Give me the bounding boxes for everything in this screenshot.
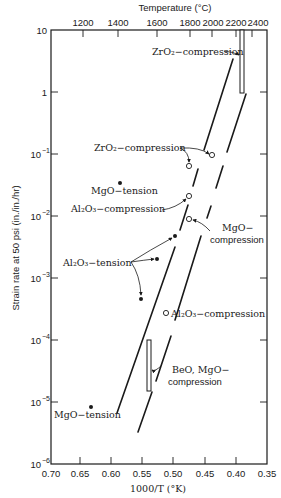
- svg-text:2400: 2400: [247, 17, 268, 28]
- annotation-mgo-tension-top: MgO−tension: [91, 185, 158, 196]
- svg-text:10: 10: [30, 149, 41, 160]
- annotation-al2o3-compression-low: Al₂O₃−compression: [170, 308, 265, 319]
- annotation-al2o3-tension: Al₂O₃−tension: [62, 257, 132, 268]
- zro2-compression-point: [209, 152, 214, 157]
- svg-text:0.60: 0.60: [102, 468, 121, 479]
- svg-text:10: 10: [30, 211, 41, 222]
- svg-text:−2: −2: [42, 209, 50, 216]
- svg-text:0.65: 0.65: [71, 468, 90, 479]
- annotation-mgo-tension-low: MgO−tension: [54, 409, 121, 420]
- y-axis-labels: 10 1 10 −1 10 −2 10 −3 10 −4 10 −5 10 −6: [30, 25, 50, 470]
- svg-text:−4: −4: [42, 333, 50, 340]
- al2o3-tension-point: [155, 257, 159, 261]
- svg-text:10: 10: [30, 273, 41, 284]
- svg-text:1200: 1200: [72, 17, 93, 28]
- mgo-compression-point: [186, 216, 191, 221]
- svg-text:0.35: 0.35: [258, 468, 277, 479]
- zro2-compression-point: [186, 163, 191, 168]
- filled-points: [89, 181, 177, 409]
- temperature-axis-title: Temperature (°C): [139, 2, 212, 13]
- al2o3-compression-point: [163, 310, 168, 315]
- top-axis-labels: 1200 1400 1600 1800 2000 2200 2400: [72, 17, 268, 28]
- annotation-mgo-compression-2: compression: [210, 234, 264, 245]
- annotation-al2o3-compression-top: Al₂O₃−compression: [70, 203, 165, 214]
- svg-text:−1: −1: [42, 147, 50, 154]
- creep-rate-chart: Temperature (°C) 1200 1400 1600 1800 200…: [0, 0, 281, 498]
- al2o3-tension-point: [139, 297, 143, 301]
- bottom-axis-ticks: [80, 457, 236, 464]
- svg-text:1800: 1800: [179, 17, 200, 28]
- bottom-axis-labels: 0.70 0.65 0.60 0.55 0.50 0.45 0.40 0.35: [42, 468, 277, 479]
- zro2-range-bar: [240, 30, 244, 93]
- svg-text:−3: −3: [42, 271, 50, 278]
- svg-text:0.70: 0.70: [42, 468, 61, 479]
- svg-text:−5: −5: [42, 395, 50, 402]
- al2o3-tension-point: [173, 234, 177, 238]
- open-points: [163, 152, 214, 315]
- annotation-beo-mgo-compression-2: compression: [168, 376, 222, 387]
- svg-text:−6: −6: [42, 457, 50, 464]
- svg-text:2000: 2000: [202, 17, 223, 28]
- svg-text:0.55: 0.55: [133, 468, 152, 479]
- svg-text:0.45: 0.45: [196, 468, 215, 479]
- svg-text:10: 10: [36, 25, 47, 36]
- annotation-zro2-compression-top: ZrO₂−compression: [152, 46, 244, 57]
- svg-text:0.40: 0.40: [227, 468, 246, 479]
- svg-text:1600: 1600: [146, 17, 167, 28]
- annotation-beo-mgo-compression-1: BeO, MgO−: [172, 364, 229, 375]
- annotation-zro2-compression-mid: ZrO₂−compression: [94, 142, 186, 153]
- svg-text:10: 10: [30, 335, 41, 346]
- svg-text:10: 10: [30, 397, 41, 408]
- top-axis-ticks: [83, 30, 252, 37]
- svg-text:10: 10: [30, 459, 41, 470]
- svg-text:1: 1: [42, 87, 47, 98]
- al2o3-compression-point: [186, 193, 191, 198]
- beo-mgo-range-bar: [147, 340, 151, 391]
- y-axis-title: Strain rate at 50 psi (in./in./hr): [10, 185, 21, 310]
- svg-text:0.50: 0.50: [164, 468, 183, 479]
- x-axis-title: 1000/T (°K): [130, 483, 186, 494]
- plot-frame: [51, 30, 267, 464]
- svg-text:1400: 1400: [107, 17, 128, 28]
- svg-text:2200: 2200: [225, 17, 246, 28]
- y-axis-ticks: [51, 92, 267, 402]
- annotation-mgo-compression-1: MgO−: [222, 222, 254, 233]
